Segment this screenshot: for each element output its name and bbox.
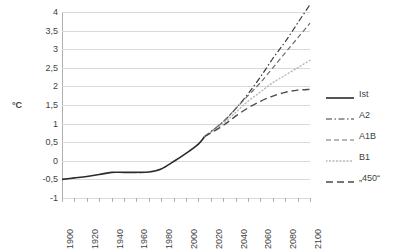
x-axis-tick-mark	[223, 198, 224, 202]
legend-item[interactable]: A2	[326, 104, 404, 125]
x-axis-tick-label: 1960	[140, 229, 149, 249]
series-line-B1	[205, 60, 310, 136]
legend-swatch	[326, 89, 354, 99]
y-axis-tick-label: 3	[12, 45, 58, 54]
x-axis-tick-mark	[87, 198, 88, 202]
series-layer	[62, 12, 310, 198]
y-axis-tick-label: 2,5	[12, 64, 58, 73]
legend-swatch	[326, 152, 354, 162]
legend-label: Ist	[359, 89, 369, 99]
y-axis-tick-label: 0	[12, 157, 58, 166]
x-axis-tick-mark	[285, 198, 286, 202]
legend-label: A1B	[359, 131, 376, 141]
y-axis-title: °C	[12, 101, 34, 110]
legend-label: B1	[359, 152, 370, 162]
x-axis-tick-label: 1920	[91, 229, 100, 249]
x-axis-tick-label: 1900	[66, 229, 75, 249]
x-axis-tick-mark	[99, 198, 100, 202]
y-axis-tick-label: 4	[12, 8, 58, 17]
x-axis-tick-mark	[198, 198, 199, 202]
y-axis-tick-label: -1	[12, 194, 58, 203]
x-axis-tick-label: 2040	[240, 229, 249, 249]
x-axis-tick-label: 1940	[116, 229, 125, 249]
x-axis-tick-mark	[124, 198, 125, 202]
series-line-Ist	[62, 137, 205, 180]
x-axis-tick-mark	[161, 198, 162, 202]
series-line-A1B	[205, 23, 310, 136]
plot-area	[62, 12, 310, 198]
x-axis-tick-mark	[186, 198, 187, 202]
y-axis-tick-label: 2	[12, 82, 58, 91]
legend-label: A2	[359, 110, 370, 120]
x-axis-tick-mark	[310, 198, 311, 202]
temperature-scenario-chart: -1-0,500,511,522,533,54 °C 1900192019401…	[0, 0, 407, 251]
legend-item[interactable]: A1B	[326, 125, 404, 146]
x-axis-tick-mark	[236, 198, 237, 202]
legend-swatch	[326, 173, 354, 183]
x-axis-tick-mark	[248, 198, 249, 202]
y-axis-tick-label: 1	[12, 120, 58, 129]
x-axis-tick-label: 2000	[190, 229, 199, 249]
legend-swatch	[326, 131, 354, 141]
x-axis-tick-mark	[211, 198, 212, 202]
x-axis-tick-labels: 1900192019401960198020002020204020602080…	[62, 203, 310, 249]
x-axis-tick-label: 2060	[264, 229, 273, 249]
series-line-450	[205, 89, 310, 136]
x-axis-tick-mark	[174, 198, 175, 202]
y-axis-tick-label: 0,5	[12, 138, 58, 147]
legend-item[interactable]: „450“	[326, 167, 404, 188]
x-axis-tick-mark	[62, 198, 63, 202]
y-axis-tick-labels: -1-0,500,511,522,533,54	[8, 0, 58, 251]
x-axis-tick-mark	[260, 198, 261, 202]
x-axis-tick-mark	[136, 198, 137, 202]
legend-item[interactable]: B1	[326, 146, 404, 167]
legend-label: „450“	[359, 173, 380, 183]
x-axis-tick-label: 2100	[314, 229, 323, 249]
series-line-A2	[205, 5, 310, 137]
x-axis-tick-mark	[298, 198, 299, 202]
x-axis-tick-mark	[74, 198, 75, 202]
x-axis-tick-mark	[149, 198, 150, 202]
x-axis-tick-label: 2080	[289, 229, 298, 249]
y-axis-tick-label: 3,5	[12, 27, 58, 36]
x-axis-tick-mark	[112, 198, 113, 202]
legend: IstA2A1BB1„450“	[326, 83, 404, 188]
y-axis-tick-label: -0,5	[12, 175, 58, 184]
legend-item[interactable]: Ist	[326, 83, 404, 104]
legend-swatch	[326, 110, 354, 120]
x-axis-tick-label: 1980	[165, 229, 174, 249]
x-axis-tick-label: 2020	[215, 229, 224, 249]
x-axis-tick-mark	[273, 198, 274, 202]
